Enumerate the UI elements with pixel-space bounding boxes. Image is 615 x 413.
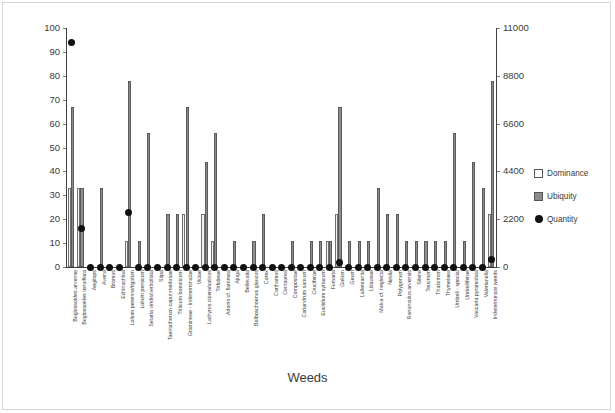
bar-group — [240, 28, 250, 267]
x-axis-tick-label: Bolboschoenus glaucus — [253, 270, 259, 354]
x-axis-tick-label: Galium — [339, 270, 345, 354]
x-axis-tick-label: Bromus — [110, 270, 116, 354]
bar-ubiquity — [386, 214, 389, 267]
quantity-point — [336, 259, 343, 266]
x-axis-tick-label: Carthamus — [273, 270, 279, 354]
x-axis-tick-label: Lallemantia — [359, 270, 365, 354]
bar-group — [345, 28, 355, 267]
x-axis-tick-label: Ranunculus arvensis — [406, 270, 412, 354]
right-axis-tick-label: 6600 — [503, 119, 543, 128]
right-axis-tick-label: 0 — [503, 262, 543, 271]
x-axis-tick-label: Centaurea — [282, 270, 288, 354]
bar-ubiquity — [128, 81, 131, 267]
x-axis-tick-label: Ajuga — [234, 270, 240, 354]
bar-group — [259, 28, 269, 267]
bar-group — [393, 28, 403, 267]
bar-ubiquity — [147, 133, 150, 267]
x-axis-labels: Buglossoides arvenseBuglossoides tenuifl… — [66, 270, 497, 356]
x-axis-tick-label: Adonis cf. flammea — [225, 270, 231, 354]
bar-group — [230, 28, 240, 267]
x-axis-tick-label: Vaccaria pyramidata — [473, 270, 479, 354]
x-axis-tick-label: Coriandrum sativum — [301, 270, 307, 354]
legend-label-ubiquity: Ubiquity — [547, 192, 577, 201]
x-axis-tick-label: Geum — [349, 270, 355, 354]
left-axis-tick-label: 0 — [26, 262, 60, 271]
quantity-marker-icon — [535, 215, 543, 223]
bar-ubiquity — [205, 162, 208, 267]
bar-group — [173, 28, 183, 267]
x-axis-tick-label: Gramineae - Indeterminatae — [187, 270, 193, 354]
dominance-swatch-icon — [534, 169, 543, 178]
x-axis-tick-label: Stipa — [158, 270, 164, 354]
x-axis-tick-label: Polygonum — [397, 270, 403, 354]
bar-ubiquity — [482, 188, 485, 267]
bar-group — [268, 28, 278, 267]
bar-group — [87, 28, 97, 267]
x-axis-tick-label: Lathyrus cicera/sativus — [206, 270, 212, 354]
x-axis-tick-label: Fumaria — [330, 270, 336, 354]
bar-group — [115, 28, 125, 267]
bar-ubiquity — [338, 107, 341, 267]
x-axis-tick-label: Aegilops — [91, 270, 97, 354]
bar-group — [421, 28, 431, 267]
x-axis-tick-label: Malva cf. neglecta — [378, 270, 384, 354]
legend-item-dominance: Dominance — [534, 168, 612, 178]
x-axis-tick-label: Valerianella — [483, 270, 489, 354]
x-axis-tick-label: Lolium persicum — [139, 270, 145, 354]
right-axis-tick-mark — [497, 267, 500, 268]
bar-group — [335, 28, 345, 267]
bar-group — [297, 28, 307, 267]
bar-group — [354, 28, 364, 267]
left-axis-tick-mark — [63, 267, 66, 268]
bar-ubiquity — [166, 214, 169, 267]
bar-group — [364, 28, 374, 267]
bar-ubiquity — [214, 133, 217, 267]
bar-ubiquity — [186, 107, 189, 267]
bar-group — [192, 28, 202, 267]
legend-item-ubiquity: Ubiquity — [534, 191, 612, 201]
bar-group — [278, 28, 288, 267]
x-axis-tick-label: Umbelliferae — [464, 270, 470, 354]
bar-group — [125, 28, 135, 267]
bar-group — [316, 28, 326, 267]
left-axis-tick-label: 100 — [26, 23, 60, 32]
bar-group — [326, 28, 336, 267]
x-axis-tick-label: Euclidium syriacum — [320, 270, 326, 354]
bar-group — [182, 28, 192, 267]
bar-ubiquity — [491, 81, 494, 267]
x-axis-tick-label: Buglossoides arvense — [72, 270, 78, 354]
bar-group — [144, 28, 154, 267]
bar-group — [96, 28, 106, 267]
x-axis-tick-label: Triticum boeoticum — [177, 270, 183, 354]
legend-label-dominance: Dominance — [547, 169, 588, 178]
legend-label-quantity: Quantity — [547, 215, 578, 224]
x-axis-tick-label: Neslia — [387, 270, 393, 354]
bar-group — [249, 28, 259, 267]
x-axis-tick-label: Cruciferae — [311, 270, 317, 354]
bar-group — [431, 28, 441, 267]
bar-ubiquity — [262, 214, 265, 267]
bar-ubiquity — [100, 188, 103, 267]
bar-ubiquity — [71, 107, 74, 267]
right-axis-tick-label: 8800 — [503, 71, 543, 80]
left-axis-tick-label: 50 — [26, 143, 60, 152]
x-axis-tick-label: Thymelaea — [445, 270, 451, 354]
bar-group — [450, 28, 460, 267]
x-axis-tick-label: Setaria viridis/verticillata — [148, 270, 154, 354]
x-axis-tick-label: Umbell - special — [454, 270, 460, 354]
bar-group — [373, 28, 383, 267]
x-axis-tick-label: Thalictrum — [435, 270, 441, 354]
bar-group — [488, 28, 498, 267]
bar-ubiquity — [472, 162, 475, 267]
bar-ubiquity — [453, 133, 456, 267]
x-axis-tick-label: Viciae — [196, 270, 202, 354]
left-axis-tick-label: 60 — [26, 119, 60, 128]
x-axis-tick-label: Buglossoides tenuiflora — [81, 270, 87, 354]
bar-group — [402, 28, 412, 267]
right-axis-tick-label: 11000 — [503, 23, 543, 32]
x-axis-tick-label: Trifolieae — [215, 270, 221, 354]
quantity-point — [125, 209, 132, 216]
bar-ubiquity — [176, 214, 179, 267]
bar-group — [440, 28, 450, 267]
x-axis-tick-label: Carex — [263, 270, 269, 354]
